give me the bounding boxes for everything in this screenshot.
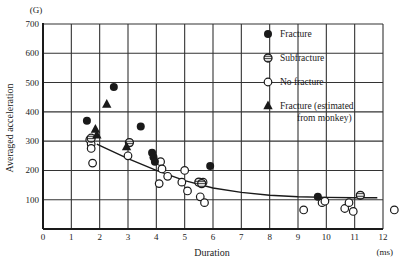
legend-label: Subfracture — [280, 53, 324, 63]
x-tick-label: 10 — [322, 232, 332, 242]
data-point-open-circle — [201, 199, 209, 207]
legend: FractureSubfractureNo fractureFracture (… — [263, 29, 354, 124]
data-point-filled-triangle — [91, 124, 100, 133]
y-tick-label: 600 — [26, 48, 40, 58]
data-point-open-circle — [349, 208, 357, 216]
legend-marker-filled-circle — [264, 30, 272, 38]
data-point-open-circle — [124, 152, 132, 160]
x-tick-label: 5 — [182, 232, 187, 242]
x-tick-label: 0 — [41, 232, 46, 242]
data-point-hatched-circle — [356, 191, 364, 199]
x-tick-label: 4 — [154, 232, 159, 242]
data-point-open-circle — [87, 145, 95, 153]
x-tick-label: 6 — [211, 232, 216, 242]
data-point-open-circle — [391, 206, 399, 214]
x-tick-label: 9 — [296, 232, 301, 242]
data-point-filled-circle — [110, 83, 118, 91]
y-tick-label: 100 — [26, 195, 40, 205]
data-point-filled-circle — [83, 117, 91, 125]
y-tick-label: 700 — [26, 19, 40, 29]
y-tick-label: 500 — [26, 78, 40, 88]
legend-label: Fracture — [280, 29, 312, 39]
data-point-open-circle — [184, 187, 192, 195]
x-tick-label: 3 — [126, 232, 131, 242]
tick-labels: 0123456789101112100200300400500600700 — [26, 19, 388, 242]
data-point-filled-circle — [137, 123, 145, 131]
chart: 0123456789101112100200300400500600700 Fr… — [0, 0, 401, 260]
data-point-filled-circle — [206, 162, 214, 170]
legend-label: No fracture — [280, 77, 324, 87]
y-axis-label: Averaged acceleration — [4, 84, 15, 173]
data-point-open-circle — [321, 197, 329, 205]
legend-marker-filled-triangle — [263, 101, 272, 110]
y-tick-label: 400 — [26, 107, 40, 117]
x-tick-label: 7 — [239, 232, 244, 242]
x-axis-label: Duration — [194, 247, 230, 258]
legend-marker-open-circle — [264, 78, 272, 86]
x-tick-label: 2 — [97, 232, 102, 242]
y-axis-unit: (G) — [30, 5, 43, 15]
x-tick-label: 12 — [379, 232, 388, 242]
data-point-open-circle — [345, 199, 353, 207]
x-tick-label: 1 — [69, 232, 74, 242]
data-point-open-circle — [164, 172, 172, 180]
x-tick-label: 11 — [350, 232, 359, 242]
data-point-open-circle — [155, 180, 163, 188]
grid — [43, 24, 383, 229]
y-tick-label: 300 — [26, 136, 40, 146]
legend-marker-hatched-circle — [264, 54, 272, 62]
data-point-filled-triangle — [102, 99, 111, 108]
data-point-open-circle — [181, 167, 189, 175]
data-point-hatched-circle — [198, 180, 206, 188]
data-point-filled-circle — [151, 158, 159, 166]
y-tick-label: 200 — [26, 165, 40, 175]
x-axis-unit: (ms) — [377, 247, 394, 257]
data-point-open-circle — [158, 165, 166, 173]
data-point-filled-circle — [314, 193, 322, 201]
legend-label-line2: from monkey) — [297, 113, 352, 124]
legend-label: Fracture (estimated — [280, 101, 354, 112]
data-point-open-circle — [300, 206, 308, 214]
x-tick-label: 8 — [267, 232, 272, 242]
data-point-open-circle — [178, 178, 186, 186]
data-point-open-circle — [89, 159, 97, 167]
